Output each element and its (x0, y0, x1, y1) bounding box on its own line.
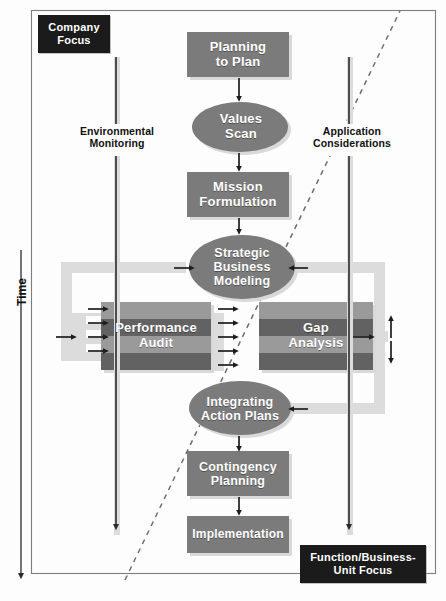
company-focus-line1: Company (48, 21, 100, 33)
node-mission-formulation (187, 172, 289, 217)
function-business-unit-focus-label: Function/Business- Unit Focus (300, 545, 426, 583)
fbu-focus-line2: Unit Focus (334, 564, 393, 576)
node-planning-to-plan (187, 32, 289, 77)
env-mon-line2: Monitoring (89, 137, 144, 149)
diagram-graphics (0, 0, 446, 601)
fbu-focus-line1: Function/Business- (310, 551, 416, 563)
app-con-line2: Considerations (313, 137, 391, 149)
env-mon-line1: Environmental (80, 125, 154, 137)
side-label-application-considerations: Application Considerations (298, 126, 406, 150)
company-focus-label: Company Focus (38, 15, 110, 53)
company-focus-line2: Focus (57, 34, 90, 46)
node-integrating-action-plans (189, 381, 291, 435)
node-gap-analysis (259, 302, 373, 370)
time-axis-label: Time (15, 269, 29, 315)
diagram-canvas: Time Company Focus Function/Business- Un… (0, 0, 446, 601)
node-values-scan (192, 102, 288, 152)
app-con-line1: Application (323, 125, 381, 137)
node-contingency-planning (187, 451, 289, 496)
node-implementation (187, 516, 289, 553)
node-strategic-business-modeling (189, 235, 295, 299)
side-label-environmental-monitoring: Environmental Monitoring (66, 126, 168, 150)
